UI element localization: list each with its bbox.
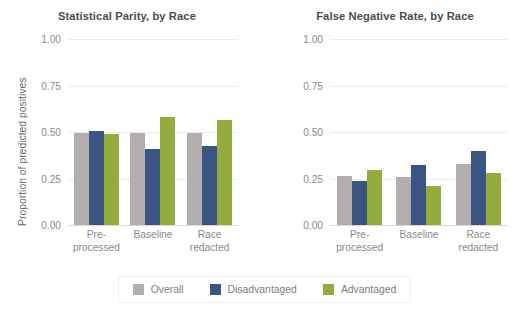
x-axis-category-label: Baseline [127, 229, 180, 254]
legend-label: Overall [151, 284, 184, 295]
x-axis-label-line [391, 242, 446, 255]
bar-groups [68, 39, 238, 225]
panel-statistical-parity: Statistical Parity, by Race Proportion o… [0, 0, 258, 272]
y-axis-tick-label: 0.75 [303, 80, 323, 91]
y-axis-tick-label: 1.00 [303, 34, 323, 45]
gridline: 0.00 [68, 225, 238, 226]
x-axis-category-label: Raceredacted [451, 229, 506, 254]
bar-disadvantaged[interactable] [471, 151, 486, 225]
legend-item[interactable]: Overall [133, 284, 184, 295]
legend-swatch-icon [133, 284, 144, 295]
bar-advantaged[interactable] [217, 120, 232, 225]
bar-disadvantaged[interactable] [89, 131, 104, 225]
legend-label: Advantaged [341, 284, 396, 295]
x-axis-labels: Pre-processedBaseline Raceredacted [330, 229, 508, 254]
bar-advantaged[interactable] [104, 134, 119, 225]
x-axis-label-line [127, 242, 180, 255]
x-axis-label-line: redacted [183, 242, 236, 255]
bar-group [70, 39, 123, 225]
bar-overall[interactable] [337, 176, 352, 225]
figure: Statistical Parity, by Race Proportion o… [0, 0, 529, 330]
panel-title: False Negative Rate, by Race [280, 10, 510, 22]
bar-group [391, 39, 446, 225]
bar-disadvantaged[interactable] [411, 165, 426, 225]
legend-swatch-icon [210, 284, 221, 295]
plot-area: 0.000.250.500.751.00 [330, 39, 508, 225]
y-axis-tick-label: 1.00 [41, 34, 61, 45]
bar-advantaged[interactable] [426, 186, 441, 225]
legend-wrapper: OverallDisadvantagedAdvantaged [0, 276, 529, 303]
y-axis-tick-label: 0.75 [41, 80, 61, 91]
bar-disadvantaged[interactable] [145, 149, 160, 225]
panel-false-negative-rate: False Negative Rate, by Race Proportion … [258, 0, 529, 272]
bar-overall[interactable] [396, 177, 411, 225]
plot-area: 0.000.250.500.751.00 [68, 39, 238, 225]
bar-disadvantaged[interactable] [202, 146, 217, 225]
x-axis-label-line: Pre- [70, 229, 123, 242]
legend: OverallDisadvantagedAdvantaged [118, 276, 412, 303]
x-axis-category-label: Pre-processed [70, 229, 123, 254]
x-axis-label-line: processed [70, 242, 123, 255]
x-axis-category-label: Raceredacted [183, 229, 236, 254]
y-axis-tick-label: 0.50 [41, 127, 61, 138]
bar-group [451, 39, 506, 225]
legend-label: Disadvantaged [228, 284, 297, 295]
x-axis-category-label: Pre-processed [332, 229, 387, 254]
legend-item[interactable]: Disadvantaged [210, 284, 297, 295]
legend-swatch-icon [323, 284, 334, 295]
bar-advantaged[interactable] [160, 117, 175, 225]
bar-overall[interactable] [456, 164, 471, 225]
gridline: 0.00 [330, 225, 508, 226]
bar-groups [330, 39, 508, 225]
y-axis-title: Proportion of predicted positives [17, 78, 28, 226]
x-axis-label-line: Race [451, 229, 506, 242]
panel-title: Statistical Parity, by Race [16, 10, 238, 22]
bar-advantaged[interactable] [367, 170, 382, 225]
x-axis-label-line: Baseline [127, 229, 180, 242]
y-axis-tick-label: 0.00 [41, 220, 61, 231]
y-axis-tick-label: 0.00 [303, 220, 323, 231]
bar-overall[interactable] [74, 133, 89, 225]
bar-overall[interactable] [130, 133, 145, 225]
y-axis-tick-label: 0.25 [41, 173, 61, 184]
bar-advantaged[interactable] [486, 173, 501, 225]
legend-item[interactable]: Advantaged [323, 284, 396, 295]
bar-group [332, 39, 387, 225]
x-axis-label-line: Baseline [391, 229, 446, 242]
y-axis-tick-label: 0.25 [303, 173, 323, 184]
x-axis-label-line: redacted [451, 242, 506, 255]
x-axis-label-line: processed [332, 242, 387, 255]
x-axis-label-line: Pre- [332, 229, 387, 242]
x-axis-category-label: Baseline [391, 229, 446, 254]
y-axis-tick-label: 0.50 [303, 127, 323, 138]
bar-group [183, 39, 236, 225]
x-axis-labels: Pre-processedBaseline Raceredacted [68, 229, 238, 254]
bar-disadvantaged[interactable] [352, 181, 367, 225]
panels-row: Statistical Parity, by Race Proportion o… [0, 0, 529, 272]
bar-group [127, 39, 180, 225]
x-axis-label-line: Race [183, 229, 236, 242]
bar-overall[interactable] [187, 133, 202, 225]
